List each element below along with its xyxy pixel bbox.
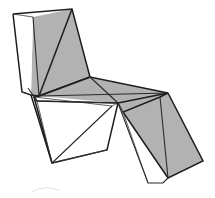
rear-leg-strut-edge bbox=[31, 95, 52, 163]
rear-leg-strut-inner-edge bbox=[37, 101, 52, 163]
front-leg-outline-edge bbox=[34, 97, 118, 163]
chair-line-drawing bbox=[0, 0, 215, 198]
front-leg-brace-inner-edge bbox=[52, 150, 107, 163]
backrest-white-strip-facet bbox=[13, 14, 33, 95]
front-leg-brace-edge bbox=[52, 106, 112, 163]
chair-illustration bbox=[0, 0, 215, 198]
scan-artifact-arc bbox=[32, 188, 60, 192]
